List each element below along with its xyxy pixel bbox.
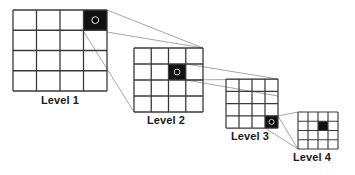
figure-root: Level 1 Level 2 Level 3 Level 4: [0, 0, 355, 175]
level-1-label: Level 1: [41, 94, 79, 107]
grid-pyramid-diagram: [0, 0, 355, 175]
level-2-label: Level 2: [147, 114, 185, 127]
level-3-label: Level 3: [231, 130, 269, 143]
grid-level-2-center-dot: [174, 69, 180, 75]
grid-level-3-center-dot: [269, 119, 274, 124]
grid-level-4-highlight-cell: [318, 121, 328, 130]
grid-level-1-center-dot: [92, 17, 99, 24]
level-4-label: Level 4: [293, 151, 331, 164]
